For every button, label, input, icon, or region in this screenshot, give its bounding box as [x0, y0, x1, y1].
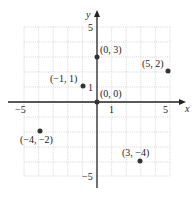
label-5-2: (5, 2) [142, 58, 164, 70]
point-0-3 [95, 55, 100, 60]
tick-x-5: 5 [163, 104, 168, 115]
point-5-2 [166, 69, 171, 74]
coordinate-plane: x y −5 1 5 5 1 −5 (0, 3) (5, 2) (−1, 1) … [0, 0, 192, 200]
x-axis-label: x [184, 103, 190, 114]
y-axis-arrow-icon [94, 10, 100, 17]
label-0-3: (0, 3) [100, 44, 122, 56]
label-0-0: (0, 0) [100, 88, 122, 100]
label-neg4-neg2: (−4, −2) [20, 134, 53, 146]
point-3-neg4 [138, 159, 143, 164]
y-axis-label: y [85, 9, 91, 20]
tick-x-neg5: −5 [15, 104, 26, 115]
point-0-0 [95, 100, 100, 105]
point-neg4-neg2 [38, 129, 43, 134]
tick-x-1: 1 [109, 104, 114, 115]
label-neg1-1: (−1, 1) [50, 73, 77, 85]
label-3-neg4: (3, −4) [122, 147, 149, 159]
tick-y-1: 1 [88, 82, 93, 93]
tick-y-neg5: −5 [82, 171, 93, 182]
tick-y-5: 5 [88, 22, 93, 33]
point-neg1-1 [81, 84, 86, 89]
